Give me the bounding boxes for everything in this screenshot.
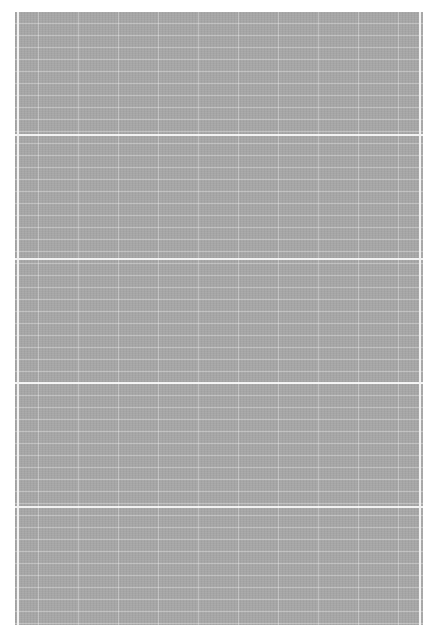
sheet-description: Gray scanned grid/ledger sheet with no l… (15, 12, 16, 13)
left-margin-line (17, 12, 19, 625)
right-margin-line (419, 12, 421, 625)
grid-sheet: Gray scanned grid/ledger sheet with no l… (15, 12, 423, 625)
